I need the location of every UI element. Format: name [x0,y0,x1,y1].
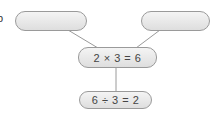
equation-division-text: 6 ÷ 3 = 2 [92,94,140,106]
connector-top-right-to-middle [136,30,160,48]
equation-multiplication: 2 × 3 = 6 [78,47,157,68]
question-marker-label: b [0,12,3,24]
fact-family-diagram: b 2 × 3 = 6 6 ÷ 3 = 2 [0,0,210,118]
answer-box-top-left[interactable] [15,11,87,31]
equation-multiplication-text: 2 × 3 = 6 [94,52,142,64]
connector-top-left-to-middle [68,30,98,48]
answer-box-top-right[interactable] [141,11,210,31]
equation-division: 6 ÷ 3 = 2 [79,91,152,109]
